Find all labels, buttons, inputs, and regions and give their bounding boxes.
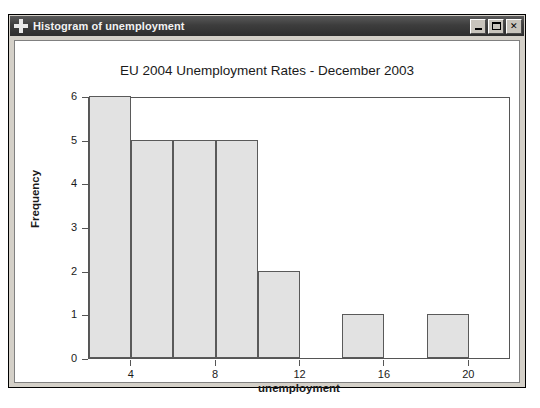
crosshair-plus-icon: [14, 19, 28, 33]
close-icon: ✕: [507, 20, 521, 33]
y-axis-tick: 3: [82, 228, 88, 229]
x-axis-tick-label: 8: [212, 368, 218, 380]
y-axis-tick: 6: [82, 97, 88, 98]
x-axis-tick: 12: [299, 360, 300, 366]
x-axis-tick: 8: [215, 360, 216, 366]
histogram-bar: [427, 314, 469, 358]
x-axis-tick-label: 4: [128, 368, 134, 380]
x-axis-tick-label: 12: [293, 368, 305, 380]
x-axis-tick: 4: [130, 360, 131, 366]
y-axis-label: Frequency: [29, 170, 41, 228]
y-axis-tick-label: 0: [71, 352, 82, 364]
histogram-bar: [89, 96, 131, 358]
x-axis-tick-label: 16: [378, 368, 390, 380]
minimize-button[interactable]: [470, 19, 486, 34]
y-axis-tick-label: 3: [71, 221, 82, 233]
y-axis-tick: 2: [82, 272, 88, 273]
y-axis-tick: 5: [82, 141, 88, 142]
close-button[interactable]: ✕: [506, 19, 522, 34]
histogram-bar: [173, 140, 215, 358]
chart-title: EU 2004 Unemployment Rates - December 20…: [15, 63, 519, 78]
y-axis-tick-label: 6: [71, 90, 82, 102]
plot-client-area: EU 2004 Unemployment Rates - December 20…: [14, 40, 520, 383]
histogram-bar: [258, 271, 300, 358]
y-axis-tick-label: 4: [71, 177, 82, 189]
x-axis-label: unemployment: [88, 382, 510, 394]
maximize-button[interactable]: [488, 19, 504, 34]
histogram-bar: [131, 140, 173, 358]
histogram-bar: [216, 140, 258, 358]
y-axis-tick-label: 2: [71, 265, 82, 277]
histogram-bar: [342, 314, 384, 358]
title-bar[interactable]: Histogram of unemployment ✕: [10, 16, 524, 36]
x-axis-tick: 20: [468, 360, 469, 366]
y-axis-tick: 1: [82, 315, 88, 316]
y-axis-tick-label: 5: [71, 134, 82, 146]
application-window: Histogram of unemployment ✕ EU 2004 Unem…: [8, 14, 526, 388]
y-axis-tick-label: 1: [71, 308, 82, 320]
y-axis-tick: 4: [82, 184, 88, 185]
x-axis-tick: 16: [383, 360, 384, 366]
window-title: Histogram of unemployment: [33, 20, 468, 32]
x-axis-tick-label: 20: [462, 368, 474, 380]
plot-frame: [88, 97, 510, 359]
histogram-plot: EU 2004 Unemployment Rates - December 20…: [15, 41, 519, 382]
y-axis-tick: 0: [82, 359, 88, 360]
